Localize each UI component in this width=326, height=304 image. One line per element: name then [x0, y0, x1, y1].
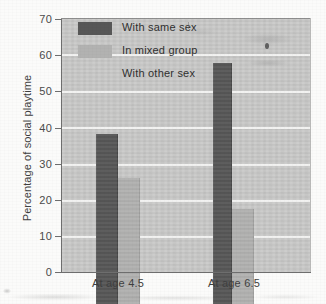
- y-tick-20: [55, 200, 62, 201]
- plot-top-border: [61, 18, 311, 19]
- x-tick-label-age-6-5: At age 6.5: [194, 277, 274, 289]
- y-axis-title: Percentage of social playtime: [21, 28, 33, 268]
- x-tick-label-age-4-5: At age 4.5: [78, 277, 158, 289]
- y-tick-30: [55, 164, 62, 165]
- y-tick-50: [55, 91, 62, 92]
- plot-right-border: [310, 18, 311, 273]
- gridline-50: [62, 91, 310, 93]
- y-tick-40: [55, 128, 62, 129]
- x-axis-line: [61, 272, 311, 273]
- scan-mark-top: [188, 22, 189, 29]
- legend-label-same-sex: With same sex: [122, 21, 197, 33]
- gridline-40: [62, 127, 310, 129]
- scan-mark-bottom-left: [2, 286, 14, 296]
- y-tick-60: [55, 55, 62, 56]
- legend-swatch-same-sex: [78, 22, 112, 35]
- y-tick-70: [55, 19, 62, 20]
- legend-label-mixed-group: In mixed group: [122, 44, 198, 56]
- legend-label-other-sex: With other sex: [122, 67, 195, 79]
- scan-smudge-bottom: [0, 292, 326, 304]
- bar-mixed-group-age-6-5: [232, 209, 254, 304]
- scan-speck: [265, 43, 269, 49]
- legend-swatch-other-sex: [78, 68, 112, 81]
- y-tick-0: [55, 272, 62, 273]
- chart-page: 70 60 50 40 30 20 10 0 Percentage of soc…: [0, 0, 326, 304]
- legend-swatch-mixed-group: [78, 45, 112, 58]
- y-tick-10: [55, 236, 62, 237]
- y-tick-label-70: 70: [12, 13, 52, 25]
- bar-same-sex-age-6-5: [213, 63, 232, 304]
- y-axis-line: [61, 18, 62, 273]
